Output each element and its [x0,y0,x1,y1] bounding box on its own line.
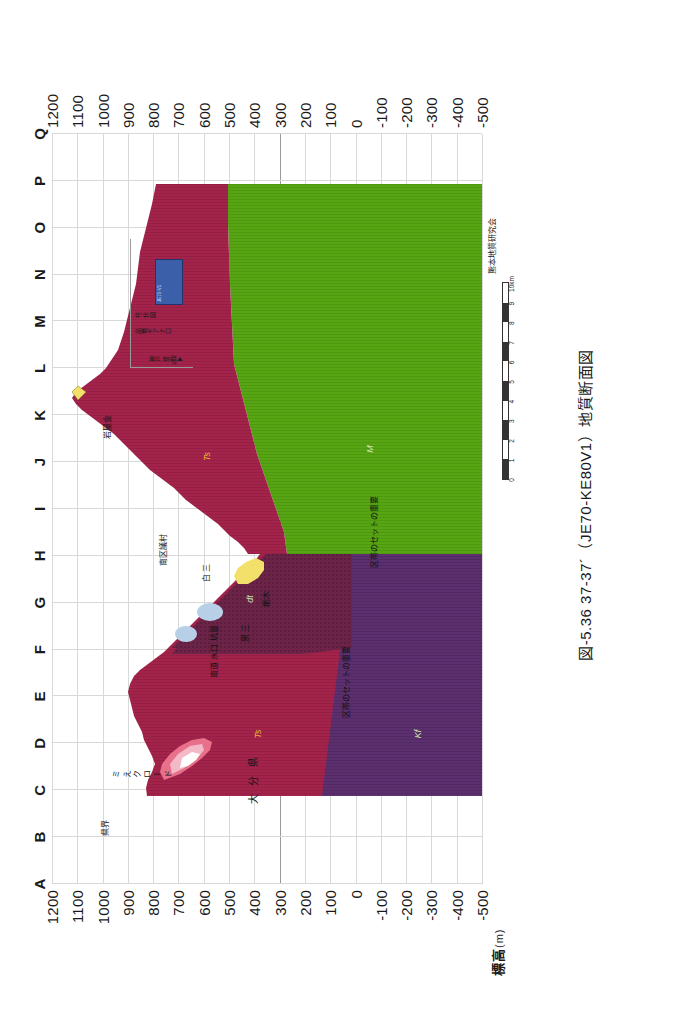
elevation-tick-label: 900 [119,74,136,128]
scale-segment [503,342,508,362]
elevation-tick-label: 1000 [94,74,111,128]
scale-tick-label: 0 [508,478,515,482]
cross-section-plot: 1200120011001100100010009009008008007007… [52,134,482,884]
elevation-tick-label: -300 [423,890,440,944]
scale-tick-label: 3 [508,419,515,423]
legend-row-3: 柱 状 図 [135,310,156,319]
scale-tick-label: 6 [508,361,515,365]
elevation-tick-label: 900 [119,890,136,944]
station-label-d: D [31,738,48,749]
station-label-k: K [31,410,48,421]
distance-scale: 012345678910km 熊本地質研究会 [492,250,532,480]
legend-box: 神戸 層 群 高橋ギアナ口 柱 状 図 212 JE70-V1 [130,239,193,368]
station-label-l: L [31,364,48,373]
unit-label-dt: dt [245,595,255,603]
scale-tick-label: 1 [508,459,515,463]
elevation-tick-label: -100 [372,74,389,128]
annotation-kusetto-right: 区帯のセットの重要 [370,496,379,568]
station-label-b: B [31,832,48,843]
elevation-tick-label: 1200 [44,74,61,128]
annotation-nanku: 南区議村 [159,534,168,566]
elevation-tick-label: 200 [296,890,313,944]
elevation-tick-label: 400 [246,74,263,128]
station-label-h: H [31,550,48,561]
figure-caption: 図-5.36 37-37´（JE70-KE80V1）地質断面図 [574,30,595,980]
scale-tick-label: 5 [508,380,515,384]
elevation-tick-label: 800 [145,74,162,128]
scale-segment [503,381,508,401]
elevation-tick-label: -400 [448,890,465,944]
scale-tick-label: 9 [508,302,515,306]
elevation-tick-label: 200 [296,74,313,128]
axis-caption-elevation: 標高(m) [488,856,507,976]
elevation-tick-label: -400 [448,74,465,128]
station-label-q: Q [31,128,48,140]
elevation-tick-label: 700 [170,890,187,944]
elevation-tick-label: 1100 [69,74,86,128]
elevation-tick-label: -100 [372,890,389,944]
station-label-m: M [31,315,48,328]
elevation-tick-label: 1000 [94,890,111,944]
scale-tick-label: 4 [508,400,515,404]
elevation-tick-label: 400 [246,890,263,944]
axis-caption-main: 標高 [491,948,506,976]
legend-marker-triangle-icon [177,357,183,361]
unit-label-ts-left: Ts [253,729,263,738]
legend-swatch-label: JE70-V1 [157,285,162,302]
annotation-mikuro-road: ミ え ク ロ ー ド [113,771,172,780]
elevation-tick-label: 800 [145,890,162,944]
elevation-tick-label: -200 [398,74,415,128]
annotation-oita-prefecture: 大 分 県 [248,754,260,805]
figure-stage: 標高(m) 1200120011001100100010009009008008… [18,30,668,980]
station-label-g: G [31,597,48,609]
elevation-tick-label: -500 [474,890,491,944]
scale-segment [503,459,508,479]
annotation-kenkai: 県界 [101,820,110,836]
elevation-tick-label: -300 [423,74,440,128]
unit-label-ts-right: Ts [202,452,212,461]
scale-tick-label: 8 [508,321,515,325]
station-label-f: F [31,645,48,654]
scale-tick-label: 10km [508,276,515,292]
credit-label: 熊本地質研究会 [486,218,497,274]
elevation-tick-label: -500 [474,74,491,128]
axis-caption-unit: (m) [493,929,505,949]
elevation-tick-label: 600 [195,74,212,128]
unit-label-m: M [365,445,375,453]
station-label-e: E [31,691,48,701]
elevation-tick-label: 0 [347,74,364,128]
station-label-o: O [31,222,48,234]
station-label-i: I [31,507,48,511]
gridline-elevation [482,134,483,884]
elevation-tick-label: 100 [322,890,339,944]
unit-label-kf: Kf [413,730,423,739]
station-label-a: A [31,879,48,890]
scale-segment [503,420,508,440]
annotation-kusetto-left: 区帯のセットの重要 [342,646,351,718]
legend-swatch: JE70-V1 [155,259,183,305]
station-label-p: P [31,176,48,186]
elevation-tick-label: 600 [195,890,212,944]
legend-row-2: 高橋ギアナ口 [135,326,171,335]
annotation-kurosan: 黒 三 [241,624,250,642]
elevation-tick-label: 1100 [69,890,86,944]
scale-tick-label: 7 [508,341,515,345]
elevation-tick-label: 500 [221,890,238,944]
elevation-tick-label: 1200 [44,890,61,944]
elevation-tick-label: 300 [271,890,288,944]
annotation-iwayama: 岩屋金 [103,415,112,439]
scale-tick-label: 2 [508,439,515,443]
elevation-tick-label: 300 [271,74,288,128]
elevation-tick-label: 500 [221,74,238,128]
annotation-shirozan: 白 三 [202,564,211,582]
annotation-suiro: 南道 水口 坑量 [211,625,220,677]
elevation-tick-label: -200 [398,890,415,944]
annotation-tochiki: 栃木 [262,591,271,607]
station-label-c: C [31,785,48,796]
elevation-tick-label: 0 [347,890,364,944]
elevation-tick-label: 700 [170,74,187,128]
station-label-j: J [31,458,48,466]
station-label-n: N [31,269,48,280]
elevation-tick-label: 100 [322,74,339,128]
scale-segment [503,303,508,323]
